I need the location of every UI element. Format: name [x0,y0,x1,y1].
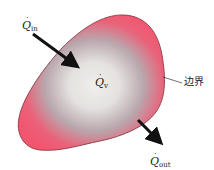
dot-accent: ˙ [25,17,30,26]
q-in-label: ˙ Qin [22,16,38,33]
dot-accent: ˙ [98,74,103,83]
heat-balance-diagram: ˙ Qin ˙ Qv ˙ Qout 边界 [0,0,214,170]
q-out-label: ˙ Qout [150,152,171,169]
subscript: v [104,82,108,90]
control-volume-boundary [18,15,164,150]
boundary-label: 边界 [184,77,204,87]
q-v-label: ˙ Qv [95,73,108,90]
subscript: out [159,161,171,169]
heat-out-arrow [138,120,158,140]
subscript: in [31,25,38,33]
boundary-leader-line [163,77,182,83]
dot-accent: ˙ [153,153,158,162]
